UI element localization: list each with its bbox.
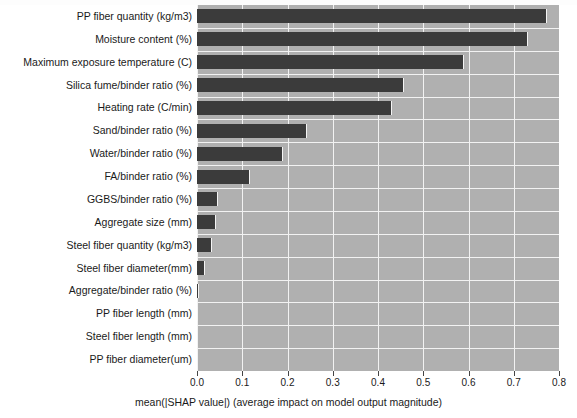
x-axis-tick xyxy=(288,371,289,376)
y-axis-tick-label: Steel fiber diameter(mm) xyxy=(0,263,192,274)
bar xyxy=(197,192,218,206)
x-axis-title: mean(|SHAP value|) (average impact on mo… xyxy=(0,396,577,408)
x-axis-tick-label: 0.6 xyxy=(462,377,476,388)
row-separator xyxy=(197,74,559,75)
x-axis-tick-label: 0.2 xyxy=(281,377,295,388)
bar xyxy=(197,215,216,229)
x-axis-tick xyxy=(559,371,560,376)
bar xyxy=(197,101,392,115)
x-axis-tick xyxy=(242,371,243,376)
y-axis-tick-label: Sand/binder ratio (%) xyxy=(0,125,192,136)
row-separator xyxy=(197,188,559,189)
bar xyxy=(197,78,404,92)
bar xyxy=(197,238,212,252)
y-axis-tick-label: PP fiber length (mm) xyxy=(0,308,192,319)
row-separator xyxy=(197,348,559,349)
bar xyxy=(197,124,307,138)
x-axis-tick-label: 0.7 xyxy=(507,377,521,388)
y-axis-tick-label: Moisture content (%) xyxy=(0,34,192,45)
x-axis-tick-label: 0.5 xyxy=(416,377,430,388)
row-separator xyxy=(197,280,559,281)
x-axis-tick xyxy=(333,371,334,376)
x-axis: 0.00.10.20.30.40.50.60.70.8 xyxy=(197,371,559,381)
y-axis-tick-label: Maximum exposure temperature (C) xyxy=(0,57,192,68)
y-axis-tick-label: GGBS/binder ratio (%) xyxy=(0,194,192,205)
bar xyxy=(197,307,198,321)
x-axis-tick-label: 0.3 xyxy=(326,377,340,388)
row-separator xyxy=(197,119,559,120)
bar xyxy=(197,32,528,46)
x-axis-tick xyxy=(423,371,424,376)
row-separator xyxy=(197,28,559,29)
row-separator xyxy=(197,257,559,258)
plot-area xyxy=(197,5,559,371)
row-separator xyxy=(197,142,559,143)
y-axis-tick-label: Steel fiber quantity (kg/m3) xyxy=(0,240,192,251)
x-axis-tick xyxy=(514,371,515,376)
x-axis-tick xyxy=(469,371,470,376)
bar xyxy=(197,170,250,184)
bar xyxy=(197,9,547,23)
bar xyxy=(197,147,283,161)
y-axis-tick-label: Silica fume/binder ratio (%) xyxy=(0,80,192,91)
bar xyxy=(197,55,464,69)
x-axis-tick xyxy=(378,371,379,376)
y-axis-tick-label: PP fiber quantity (kg/m3) xyxy=(0,11,192,22)
y-axis-tick-label: Steel fiber length (mm) xyxy=(0,331,192,342)
row-separator xyxy=(197,234,559,235)
row-separator xyxy=(197,302,559,303)
shap-summary-bar-chart: PP fiber quantity (kg/m3)Moisture conten… xyxy=(0,0,577,418)
y-axis-tick-label: Heating rate (C/min) xyxy=(0,102,192,113)
x-axis-tick xyxy=(197,371,198,376)
row-separator xyxy=(197,165,559,166)
row-separator xyxy=(197,211,559,212)
row-separator xyxy=(197,325,559,326)
bar xyxy=(197,284,199,298)
x-axis-tick-label: 0.0 xyxy=(190,377,204,388)
y-axis-tick-label: Aggregate size (mm) xyxy=(0,217,192,228)
row-separator xyxy=(197,97,559,98)
x-axis-tick-label: 0.1 xyxy=(235,377,249,388)
x-axis-tick-label: 0.4 xyxy=(371,377,385,388)
y-axis-tick-label: Aggregate/binder ratio (%) xyxy=(0,285,192,296)
y-axis-tick-label: PP fiber diameter(um) xyxy=(0,354,192,365)
row-separator xyxy=(197,51,559,52)
x-axis-tick-label: 0.8 xyxy=(552,377,566,388)
bar xyxy=(197,261,205,275)
y-axis-labels: PP fiber quantity (kg/m3)Moisture conten… xyxy=(0,5,192,371)
y-axis-tick-label: Water/binder ratio (%) xyxy=(0,148,192,159)
y-axis-tick-label: FA/binder ratio (%) xyxy=(0,171,192,182)
